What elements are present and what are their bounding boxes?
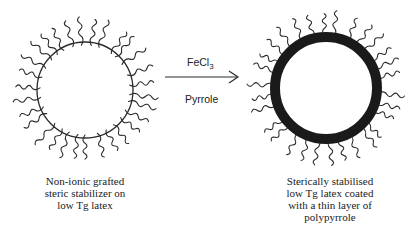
right-caption-line: low Tg latex coated [270, 187, 390, 199]
left-particle-core [37, 42, 133, 138]
right-caption: Sterically stabilised low Tg latex coate… [270, 175, 390, 223]
left-caption: Non-ionic grafted steric stabilizer on l… [20, 175, 150, 211]
stabilizer-chain [21, 55, 45, 68]
right-caption-line: with a thin layer of [270, 199, 390, 211]
right-caption-line: Sterically stabilised [270, 175, 390, 187]
stabilizer-chain [111, 32, 127, 53]
stabilizer-chain [130, 93, 158, 99]
reaction-arrow [165, 71, 238, 83]
polypyrrole-shell [275, 37, 377, 139]
stabilizer-chain [60, 132, 70, 158]
stabilizer-chain [64, 21, 73, 47]
left-caption-line: steric stabilizer on [20, 187, 150, 199]
stabilizer-chain [129, 101, 156, 110]
stabilizer-chain [99, 20, 110, 47]
left-caption-line: Non-ionic grafted [20, 175, 150, 187]
stabilizer-chain [90, 20, 97, 46]
oxidant-label: FeCl3 [187, 56, 214, 71]
stabilizer-chain [13, 97, 40, 102]
stabilizer-chain [52, 28, 64, 50]
stabilizer-chain [122, 48, 146, 64]
stabilizer-chain [115, 37, 134, 57]
stabilizer-chain [125, 110, 148, 122]
stabilizer-chain [97, 133, 104, 157]
stabilizer-chain [77, 17, 83, 45]
left-caption-line: low Tg latex [20, 199, 150, 211]
right-coated-particle [247, 11, 404, 166]
monomer-label: Pyrrole [185, 93, 218, 105]
right-caption-line: polypyrrole [270, 211, 390, 223]
stabilizer-chain [20, 107, 44, 117]
stabilizer-chain [127, 65, 152, 76]
left-latex-particle [13, 17, 158, 159]
stabilizer-chain [35, 123, 55, 144]
